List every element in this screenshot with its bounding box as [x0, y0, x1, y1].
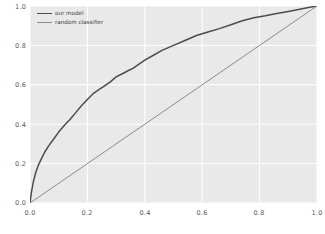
x-tick-label: 0.4: [132, 209, 158, 217]
y-tick-label: 0.0: [2, 199, 26, 207]
y-tick-label: 1.0: [2, 3, 26, 11]
x-tick-label: 0.2: [74, 209, 100, 217]
legend: our model random classifier: [36, 9, 106, 27]
series-line: [30, 6, 317, 203]
plot-area: [30, 6, 317, 203]
y-tick-label: 0.6: [2, 81, 26, 89]
legend-line-swatch-our-model: [37, 13, 52, 14]
series-layer: [30, 6, 317, 203]
x-tick-label: 0.0: [17, 209, 43, 217]
roc-curve-figure: 1.0 0.8 0.6 0.4 0.2 0.0 0.0 0.2 0.4 0.6 …: [0, 0, 325, 234]
legend-line-swatch-random-classifier: [37, 22, 52, 23]
legend-label-our-model: our model: [55, 10, 83, 17]
y-tick-label: 0.4: [2, 121, 26, 129]
y-tick-label: 0.8: [2, 42, 26, 50]
legend-item-our-model: our model: [37, 10, 103, 17]
x-tick-label: 1.0: [304, 209, 325, 217]
y-tick-label: 0.2: [2, 160, 26, 168]
legend-item-random-classifier: random classifier: [37, 19, 103, 26]
x-tick-label: 0.6: [189, 209, 215, 217]
x-tick-label: 0.8: [246, 209, 272, 217]
legend-label-random-classifier: random classifier: [55, 19, 103, 26]
